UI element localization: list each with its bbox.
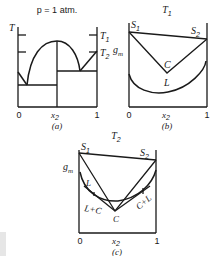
- panel-c-title: T2: [111, 130, 121, 143]
- panel-a-x-tick-1: 1: [94, 110, 99, 120]
- panel-a-y-label: T: [9, 22, 16, 33]
- panel-c-x-tick-x2: x2: [111, 236, 120, 247]
- panel-a: p = 1 atm. T T1 T2 0 x2 1 (a): [9, 5, 110, 131]
- panel-b-c-label: C: [164, 59, 171, 70]
- panel-b-l-label: L: [163, 77, 170, 88]
- panel-b-x-tick-1: 1: [204, 110, 209, 120]
- panel-b: T1 S1 S2 gm C L 0 x2 1 (b): [113, 4, 210, 131]
- panel-c-c-label: C: [113, 214, 120, 224]
- panel-c: T2 S1 S2 gm L L+C C C+L 0 x2 1 (c): [63, 130, 160, 256]
- liquidus-dome: [27, 41, 80, 85]
- panel-b-s1-label: S1: [131, 19, 140, 32]
- liquidus-left: [18, 72, 27, 85]
- panel-c-x-tick-0: 0: [77, 236, 82, 246]
- panel-c-s1-label: S1: [81, 141, 90, 154]
- panel-b-x-tick-x2: x2: [161, 110, 170, 121]
- panel-b-y-label: gm: [113, 44, 123, 58]
- panel-a-t2-label: T2: [100, 47, 110, 60]
- phase-diagram-figure: p = 1 atm. T T1 T2 0 x2 1 (a) T1: [0, 0, 213, 256]
- panel-a-x-tick-x2: x2: [50, 110, 59, 121]
- panel-a-title: p = 1 atm.: [37, 5, 77, 15]
- panel-b-caption: (b): [162, 121, 173, 131]
- panel-a-caption: (a): [52, 121, 63, 131]
- panel-b-title: T1: [162, 4, 172, 17]
- panel-c-y-label: gm: [63, 161, 73, 175]
- panel-c-caption: (c): [112, 247, 122, 256]
- panel-a-t1-label: T1: [100, 30, 110, 43]
- panel-b-x-tick-0: 0: [126, 110, 131, 120]
- panel-c-x-tick-1: 1: [154, 236, 159, 246]
- liquidus-right: [80, 51, 97, 71]
- panel-c-l-label: L: [85, 178, 91, 188]
- panel-b-s2-label: S2: [191, 25, 200, 38]
- panel-a-x-tick-0: 0: [16, 110, 21, 120]
- panel-c-l-plus-c-label: L+C: [83, 203, 104, 216]
